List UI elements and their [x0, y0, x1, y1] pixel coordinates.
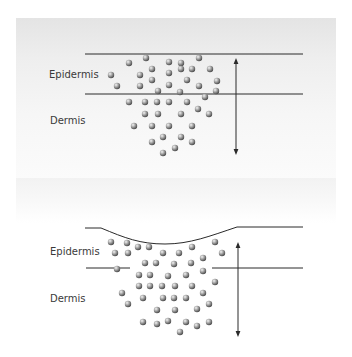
particle: [165, 273, 171, 279]
particle: [136, 283, 142, 289]
particle: [194, 306, 200, 312]
particle: [214, 78, 220, 84]
particle: [126, 60, 132, 66]
particle: [165, 318, 171, 324]
skin-surface-curve: [85, 227, 303, 244]
particle: [125, 250, 131, 256]
dermis-label-bottom: Dermis: [50, 293, 86, 305]
particle: [183, 319, 189, 325]
particle: [155, 111, 161, 117]
particle: [166, 70, 172, 76]
particle: [125, 301, 131, 307]
particle: [112, 250, 118, 256]
particle: [147, 283, 153, 289]
particle-cluster: [108, 55, 220, 156]
particle: [200, 290, 206, 296]
particle: [189, 244, 195, 250]
particle: [149, 66, 155, 72]
depressed-skin-panel: [85, 227, 303, 335]
particle: [108, 239, 114, 245]
particle: [196, 83, 202, 89]
particle: [188, 260, 194, 266]
particle: [206, 319, 212, 325]
particle: [140, 295, 146, 301]
particle: [178, 66, 184, 72]
particle: [195, 106, 201, 112]
particle: [212, 279, 218, 285]
particle: [114, 83, 120, 89]
particle: [135, 244, 141, 250]
particle: [171, 295, 177, 301]
particle: [213, 88, 219, 94]
particle: [172, 283, 178, 289]
particle: [189, 123, 195, 129]
particle: [143, 55, 149, 61]
particle: [136, 272, 142, 278]
particle: [172, 307, 178, 313]
particle: [171, 261, 177, 267]
particle: [183, 295, 189, 301]
epidermis-label-top: Epidermis: [49, 69, 99, 81]
particle: [207, 66, 213, 72]
particle: [119, 290, 125, 296]
particle: [147, 272, 153, 278]
particle: [149, 139, 155, 145]
particle: [166, 99, 172, 105]
particle: [166, 123, 172, 129]
particle: [114, 266, 120, 272]
particle: [206, 301, 212, 307]
particle-cluster: [108, 239, 225, 335]
particle: [149, 77, 155, 83]
particle: [166, 59, 172, 65]
particle: [159, 283, 165, 289]
particle: [189, 139, 195, 145]
particle: [154, 307, 160, 313]
particle: [153, 260, 159, 266]
particle: [172, 145, 178, 151]
particle: [154, 321, 160, 327]
particle: [160, 134, 166, 140]
particle: [183, 272, 189, 278]
particle: [140, 319, 146, 325]
particle: [154, 99, 160, 105]
particle: [184, 77, 190, 83]
particle: [196, 55, 202, 61]
particle: [137, 72, 143, 78]
particle: [184, 99, 190, 105]
particle: [160, 150, 166, 156]
particle: [176, 250, 182, 256]
particle: [126, 99, 132, 105]
particle: [178, 111, 184, 117]
particle: [131, 123, 137, 129]
particle: [166, 82, 172, 88]
particle: [149, 123, 155, 129]
particle: [178, 134, 184, 140]
epidermis-label-bottom: Epidermis: [50, 246, 100, 258]
particle: [189, 283, 195, 289]
particle: [219, 250, 225, 256]
particle: [142, 260, 148, 266]
particle: [108, 72, 114, 78]
dermis-label-top: Dermis: [50, 115, 86, 127]
particle: [200, 255, 206, 261]
particle: [155, 88, 161, 94]
particle: [177, 329, 183, 335]
particle: [137, 83, 143, 89]
particle: [142, 111, 148, 117]
particle: [206, 111, 212, 117]
particle: [202, 94, 208, 100]
particle: [177, 89, 183, 95]
normal-skin-panel: [85, 54, 303, 156]
particle: [160, 295, 166, 301]
particle: [146, 244, 152, 250]
particle: [200, 268, 206, 274]
particle: [142, 99, 148, 105]
particle: [212, 239, 218, 245]
particle: [178, 60, 184, 66]
particle: [189, 66, 195, 72]
particle: [160, 250, 166, 256]
particle: [124, 240, 130, 246]
particle: [194, 323, 200, 329]
